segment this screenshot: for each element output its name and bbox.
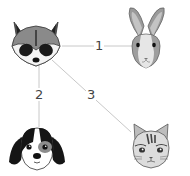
raccoon-icon — [12, 22, 60, 66]
edge-label-1: 1 — [94, 39, 104, 52]
edge-label-2: 2 — [34, 88, 44, 101]
edge-label-3: 3 — [86, 88, 96, 101]
cat-icon — [133, 124, 169, 168]
dog-icon — [9, 128, 65, 170]
rabbit-icon — [129, 8, 164, 68]
